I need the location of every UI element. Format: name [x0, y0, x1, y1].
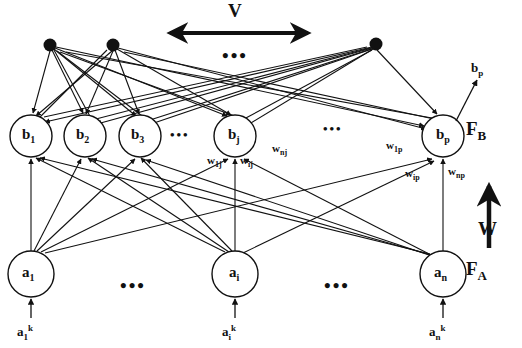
node-bp-label: bp — [436, 127, 450, 145]
hidden-dot-layer — [44, 38, 383, 52]
field-label-fb: FB — [466, 119, 486, 142]
weight-wnj-label: wnj — [272, 143, 287, 157]
weight-wip-label: wip — [405, 168, 420, 182]
w-matrix-label: W — [478, 219, 497, 238]
diagram-canvas — [0, 0, 522, 348]
dot-2 — [107, 39, 120, 52]
a-layer-ellipsis-2: ••• — [324, 276, 350, 295]
node-ai-label: ai — [229, 265, 239, 283]
w-connections — [31, 158, 443, 256]
top-ellipsis: ••• — [222, 46, 248, 65]
weight-wij-label: wij — [240, 155, 253, 169]
b-layer-ellipsis-1: ••• — [170, 128, 190, 141]
field-label-fa: FA — [466, 259, 487, 282]
node-an-label: an — [434, 265, 447, 283]
weight-w1p-label: w1p — [386, 140, 402, 154]
input-a1k-label: a1k — [17, 324, 33, 342]
input-arrows — [31, 299, 443, 318]
output-arrow-bp — [456, 80, 477, 121]
bam-network-diagram: V ••• b1 b2 b3 bj bp ••• ••• a1 ai an ••… — [0, 0, 522, 348]
node-b1-label: b1 — [22, 127, 35, 145]
node-b3-label: b3 — [131, 127, 144, 145]
node-b2-label: b2 — [76, 127, 89, 145]
dot-1 — [44, 39, 57, 52]
b-layer-ellipsis-2: ••• — [323, 122, 343, 135]
dot-3 — [370, 38, 383, 51]
input-ank-label: ank — [429, 324, 446, 342]
weight-wnp-label: wnp — [448, 166, 465, 180]
v-matrix-label: V — [228, 1, 242, 20]
node-a1-label: a1 — [22, 265, 35, 283]
input-aik-label: aik — [222, 324, 236, 342]
weight-w1j-label: w1j — [207, 155, 222, 169]
output-bp-label: bp — [471, 61, 483, 78]
node-bj-label: bj — [228, 127, 240, 145]
a-layer-ellipsis-1: ••• — [120, 276, 146, 295]
